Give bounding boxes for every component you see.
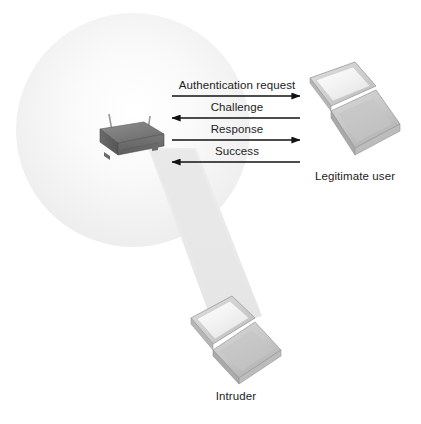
intruder-label: Intruder bbox=[186, 390, 286, 402]
diagram-canvas: Authentication request Challenge Respons… bbox=[0, 0, 421, 424]
diagram-svg bbox=[0, 0, 421, 424]
message-label-challenge: Challenge bbox=[175, 101, 299, 113]
legitimate-user-laptop-icon bbox=[310, 62, 400, 155]
message-label-response: Response bbox=[175, 123, 299, 135]
intruder-laptop-icon bbox=[191, 296, 281, 384]
message-label-authentication-request: Authentication request bbox=[175, 79, 299, 91]
message-label-success: Success bbox=[175, 145, 299, 157]
legitimate-user-label: Legitimate user bbox=[295, 170, 415, 182]
